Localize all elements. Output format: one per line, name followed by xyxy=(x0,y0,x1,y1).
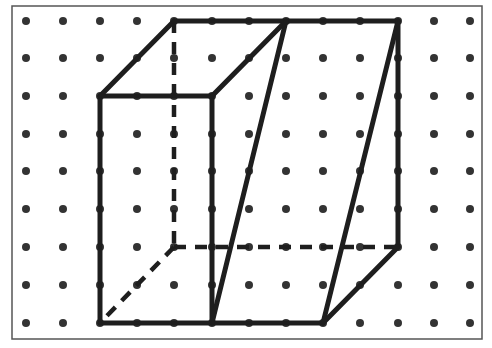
grid-dot xyxy=(59,319,67,327)
grid-dot xyxy=(59,243,67,251)
grid-dot xyxy=(430,167,438,175)
grid-dot xyxy=(319,205,327,213)
grid-dot xyxy=(319,281,327,289)
grid-dot xyxy=(466,167,474,175)
grid-dot xyxy=(22,167,30,175)
grid-dot xyxy=(22,17,30,25)
grid-dot xyxy=(22,243,30,251)
grid-dot xyxy=(59,205,67,213)
grid-dot xyxy=(466,319,474,327)
grid-dot xyxy=(59,130,67,138)
grid-dot xyxy=(430,130,438,138)
grid-dot xyxy=(466,130,474,138)
grid-dot xyxy=(22,205,30,213)
grid-dot xyxy=(245,92,253,100)
grid-dot xyxy=(133,17,141,25)
hidden-edge xyxy=(100,247,174,323)
grid-dot xyxy=(394,281,402,289)
grid-dot xyxy=(356,130,364,138)
grid-dot xyxy=(96,17,104,25)
grid-dot xyxy=(22,319,30,327)
visible-edge xyxy=(212,21,286,323)
grid-dot xyxy=(466,92,474,100)
grid-dot xyxy=(22,130,30,138)
grid-dot xyxy=(356,92,364,100)
grid-dot xyxy=(356,54,364,62)
grid-dot xyxy=(466,205,474,213)
grid-dot xyxy=(282,205,290,213)
grid-dot xyxy=(245,281,253,289)
grid-dot xyxy=(430,243,438,251)
grid-dot xyxy=(282,130,290,138)
grid-dot xyxy=(22,281,30,289)
grid-dot xyxy=(319,130,327,138)
grid-dot xyxy=(430,54,438,62)
grid-dot xyxy=(466,281,474,289)
grid-dot xyxy=(170,281,178,289)
grid-dot xyxy=(466,243,474,251)
grid-dot xyxy=(282,281,290,289)
grid-dot xyxy=(133,205,141,213)
grid-dot xyxy=(430,319,438,327)
grid-dot xyxy=(466,54,474,62)
grid-dot xyxy=(22,92,30,100)
grid-dot xyxy=(282,167,290,175)
grid-dot xyxy=(356,319,364,327)
grid-dot xyxy=(59,281,67,289)
grid-dot xyxy=(22,54,30,62)
grid-dot xyxy=(430,17,438,25)
grid-dot xyxy=(170,54,178,62)
grid-dot xyxy=(430,205,438,213)
grid-dot xyxy=(394,319,402,327)
grid-dot xyxy=(319,167,327,175)
grid-dot xyxy=(245,130,253,138)
grid-dot xyxy=(319,54,327,62)
grid-dot xyxy=(430,92,438,100)
grid-dot xyxy=(319,92,327,100)
grid-dot xyxy=(430,281,438,289)
grid-dot xyxy=(59,54,67,62)
grid-dot xyxy=(245,205,253,213)
grid-dot xyxy=(356,205,364,213)
grid-dot xyxy=(282,92,290,100)
grid-dot xyxy=(133,130,141,138)
visible-edge xyxy=(100,21,174,96)
grid-dot xyxy=(466,17,474,25)
grid-dot xyxy=(282,54,290,62)
grid-dot xyxy=(96,54,104,62)
grid-dot xyxy=(133,167,141,175)
grid-dot xyxy=(133,243,141,251)
visible-edge xyxy=(323,21,398,323)
grid-dot xyxy=(59,167,67,175)
grid-dot xyxy=(59,17,67,25)
grid-dot xyxy=(208,54,216,62)
grid-dot xyxy=(356,243,364,251)
grid-dot xyxy=(59,92,67,100)
dot-grid-diagram xyxy=(0,0,492,348)
